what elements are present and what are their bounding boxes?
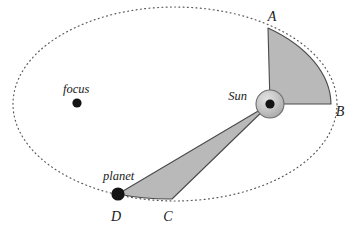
label-point-a: A bbox=[267, 9, 277, 24]
label-point-d: D bbox=[110, 209, 121, 224]
label-focus: focus bbox=[63, 82, 90, 96]
label-point-b: B bbox=[336, 104, 345, 119]
planet-marker bbox=[111, 187, 124, 200]
label-point-c: C bbox=[163, 209, 173, 224]
kepler-orbit-figure: focus Sun planet A B C D bbox=[0, 0, 352, 226]
orbit-diagram-canvas: focus Sun planet A B C D bbox=[0, 0, 352, 226]
focus-marker bbox=[72, 98, 81, 107]
label-planet: planet bbox=[102, 169, 135, 183]
label-sun: Sun bbox=[228, 89, 247, 103]
sector-sun-d-c bbox=[118, 104, 270, 199]
sun-core bbox=[265, 99, 274, 108]
